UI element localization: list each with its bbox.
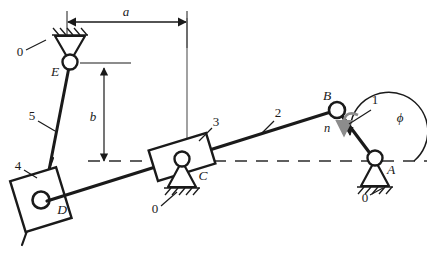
label-D: D — [56, 202, 67, 217]
ground-hatch-E — [53, 28, 87, 35]
link-label-4: 4 — [15, 158, 22, 173]
label-A: A — [386, 162, 396, 177]
phi-arc — [350, 92, 427, 161]
label-B: B — [323, 88, 331, 103]
n-label: n — [324, 121, 330, 135]
phi-label: ϕ — [397, 110, 404, 125]
leader-ground-E — [26, 40, 46, 50]
link-label-1: 1 — [372, 92, 379, 107]
label-C: C — [198, 168, 208, 183]
dimension-a: a — [67, 4, 187, 48]
link-label-3: 3 — [213, 114, 220, 129]
leader-5 — [38, 121, 55, 131]
dimension-b: b — [80, 63, 131, 161]
joint-B-circle — [329, 102, 345, 118]
linkage-diagram: a b — [0, 0, 427, 265]
ground-label-E: 0 — [17, 44, 24, 59]
link-label-2: 2 — [275, 105, 282, 120]
ground-hatch-C — [165, 188, 199, 195]
link-label-5: 5 — [29, 108, 36, 123]
label-E: E — [50, 64, 60, 79]
ground-label-C: 0 — [152, 201, 159, 216]
joint-C-circle — [175, 152, 190, 167]
ground-label-A: 0 — [362, 190, 369, 205]
mechanism-drawing: a b — [0, 0, 427, 265]
phi-angle-annotation: ϕ — [350, 92, 427, 161]
joint-A-circle — [368, 151, 383, 166]
leader-ground-C — [161, 192, 177, 206]
dimension-label-b: b — [90, 109, 97, 124]
joint-E-circle — [63, 55, 78, 70]
dimension-label-a: a — [123, 4, 130, 19]
